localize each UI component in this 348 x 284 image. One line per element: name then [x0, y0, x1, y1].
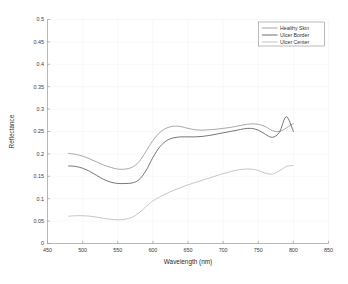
y-tick-label: 0.05 — [34, 218, 45, 224]
y-axis-title: Reflectance — [8, 114, 15, 148]
y-tick-label: 0.45 — [34, 39, 45, 45]
x-axis-title: Wavelength (nm) — [164, 258, 212, 266]
x-tick-label: 850 — [324, 247, 333, 253]
figure-canvas: 450500550600650700750800850 00.050.10.15… — [0, 0, 348, 284]
x-tick-label: 650 — [184, 247, 193, 253]
x-tick-label: 500 — [78, 247, 87, 253]
x-tick-labels: 450500550600650700750800850 — [43, 247, 333, 253]
y-tick-label: 0.15 — [34, 173, 45, 179]
y-tick-label: 0.25 — [34, 128, 45, 134]
x-tick-label: 600 — [148, 247, 157, 253]
x-tick-label: 450 — [43, 247, 52, 253]
y-tick-label: 0 — [41, 240, 44, 246]
x-tick-label: 550 — [113, 247, 122, 253]
x-tick-label: 750 — [254, 247, 263, 253]
chart-legend[interactable]: Healthy SkinUlcer BorderUlcer Center — [259, 22, 325, 46]
legend-label-healthy-skin: Healthy Skin — [280, 25, 309, 31]
x-tick-label: 700 — [219, 247, 228, 253]
x-tick-label: 800 — [289, 247, 298, 253]
y-tick-label: 0.3 — [37, 106, 45, 112]
y-tick-label: 0.4 — [37, 61, 45, 67]
y-tick-label: 0.35 — [34, 84, 45, 90]
y-tick-label: 0.1 — [37, 196, 45, 202]
legend-label-ulcer-border: Ulcer Border — [280, 32, 309, 38]
y-tick-label: 0.2 — [37, 151, 45, 157]
y-tick-label: 0.5 — [37, 16, 45, 22]
reflectance-spectrum-chart: 450500550600650700750800850 00.050.10.15… — [0, 0, 348, 284]
legend-label-ulcer-center: Ulcer Center — [280, 39, 309, 45]
